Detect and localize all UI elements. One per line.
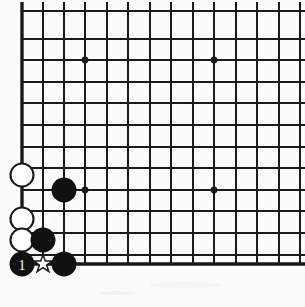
white-stone[interactable] bbox=[11, 208, 34, 231]
move-number-label: 1 bbox=[19, 258, 26, 273]
go-board-figure: 1 bbox=[0, 0, 305, 307]
white-stone[interactable] bbox=[11, 229, 34, 252]
hoshi-top-left bbox=[82, 57, 89, 64]
hoshi-bottom-right bbox=[211, 187, 218, 194]
hoshi-bottom-left bbox=[82, 187, 89, 194]
black-stone[interactable] bbox=[31, 228, 56, 253]
go-board-grid: 1 bbox=[0, 0, 305, 307]
black-stone[interactable] bbox=[52, 178, 77, 203]
black-stone[interactable] bbox=[52, 252, 77, 277]
hoshi-top-right bbox=[211, 57, 218, 64]
white-stone[interactable] bbox=[11, 164, 34, 187]
